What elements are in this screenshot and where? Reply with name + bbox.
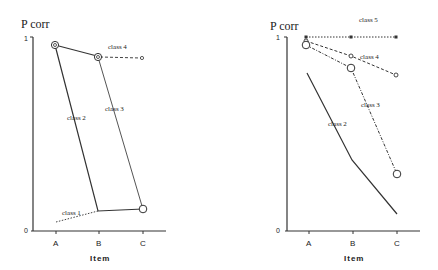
right-class-5-marker-c bbox=[395, 36, 398, 39]
right-y-tick-0: 0 bbox=[276, 227, 280, 234]
left-label-class-4: class 4 bbox=[108, 43, 127, 51]
left-marker-a-inner bbox=[54, 44, 57, 47]
right-x-label-b: B bbox=[350, 239, 355, 248]
left-marker-b-inner bbox=[97, 56, 100, 59]
left-x-axis-label: Item bbox=[90, 254, 110, 263]
left-chart: P corr 1 0 A B C Item class 4 class 3 cl bbox=[21, 17, 166, 263]
left-y-tick-0: 0 bbox=[24, 227, 28, 234]
right-label-class-4: class 4 bbox=[360, 53, 379, 61]
right-x-label-c: C bbox=[394, 239, 400, 248]
left-x-label-b: B bbox=[96, 239, 101, 248]
right-label-class-3: class 3 bbox=[361, 101, 380, 109]
left-label-class-2: class 2 bbox=[67, 114, 86, 122]
left-label-class-1: class 1 bbox=[62, 209, 81, 217]
left-marker-c-class4 bbox=[140, 56, 143, 59]
right-x-label-a: A bbox=[306, 239, 312, 248]
left-y-axis-label: P corr bbox=[21, 17, 50, 31]
left-series-class-2 bbox=[55, 45, 143, 211]
left-series-class-3 bbox=[98, 57, 142, 206]
right-label-class-2: class 2 bbox=[328, 120, 347, 128]
left-series-class-4-bc bbox=[100, 57, 141, 58]
right-series-class-2 bbox=[307, 73, 397, 214]
right-class-4-marker-c bbox=[394, 73, 398, 77]
left-x-label-a: A bbox=[53, 239, 59, 248]
right-y-tick-1: 1 bbox=[276, 34, 280, 41]
right-chart: P corr 1 0 A B C Item class 5 class 4 bbox=[270, 16, 420, 263]
right-y-axis-label: P corr bbox=[270, 19, 299, 33]
left-label-class-3: class 3 bbox=[105, 105, 124, 113]
right-class-5-marker-b bbox=[350, 36, 353, 39]
right-x-axis-label: Item bbox=[344, 254, 364, 263]
right-class-4-marker-b bbox=[349, 54, 353, 58]
right-class-5-marker-a bbox=[305, 36, 308, 39]
left-x-label-c: C bbox=[140, 239, 146, 248]
right-class-3-marker-c bbox=[393, 170, 401, 178]
left-series-class-4-ab bbox=[55, 45, 97, 56]
right-label-class-5: class 5 bbox=[359, 16, 378, 24]
left-marker-c-large bbox=[139, 205, 147, 213]
right-class-3-marker-b bbox=[347, 64, 355, 72]
right-class-3-marker-a bbox=[302, 41, 310, 49]
left-y-tick-1: 1 bbox=[24, 35, 28, 42]
